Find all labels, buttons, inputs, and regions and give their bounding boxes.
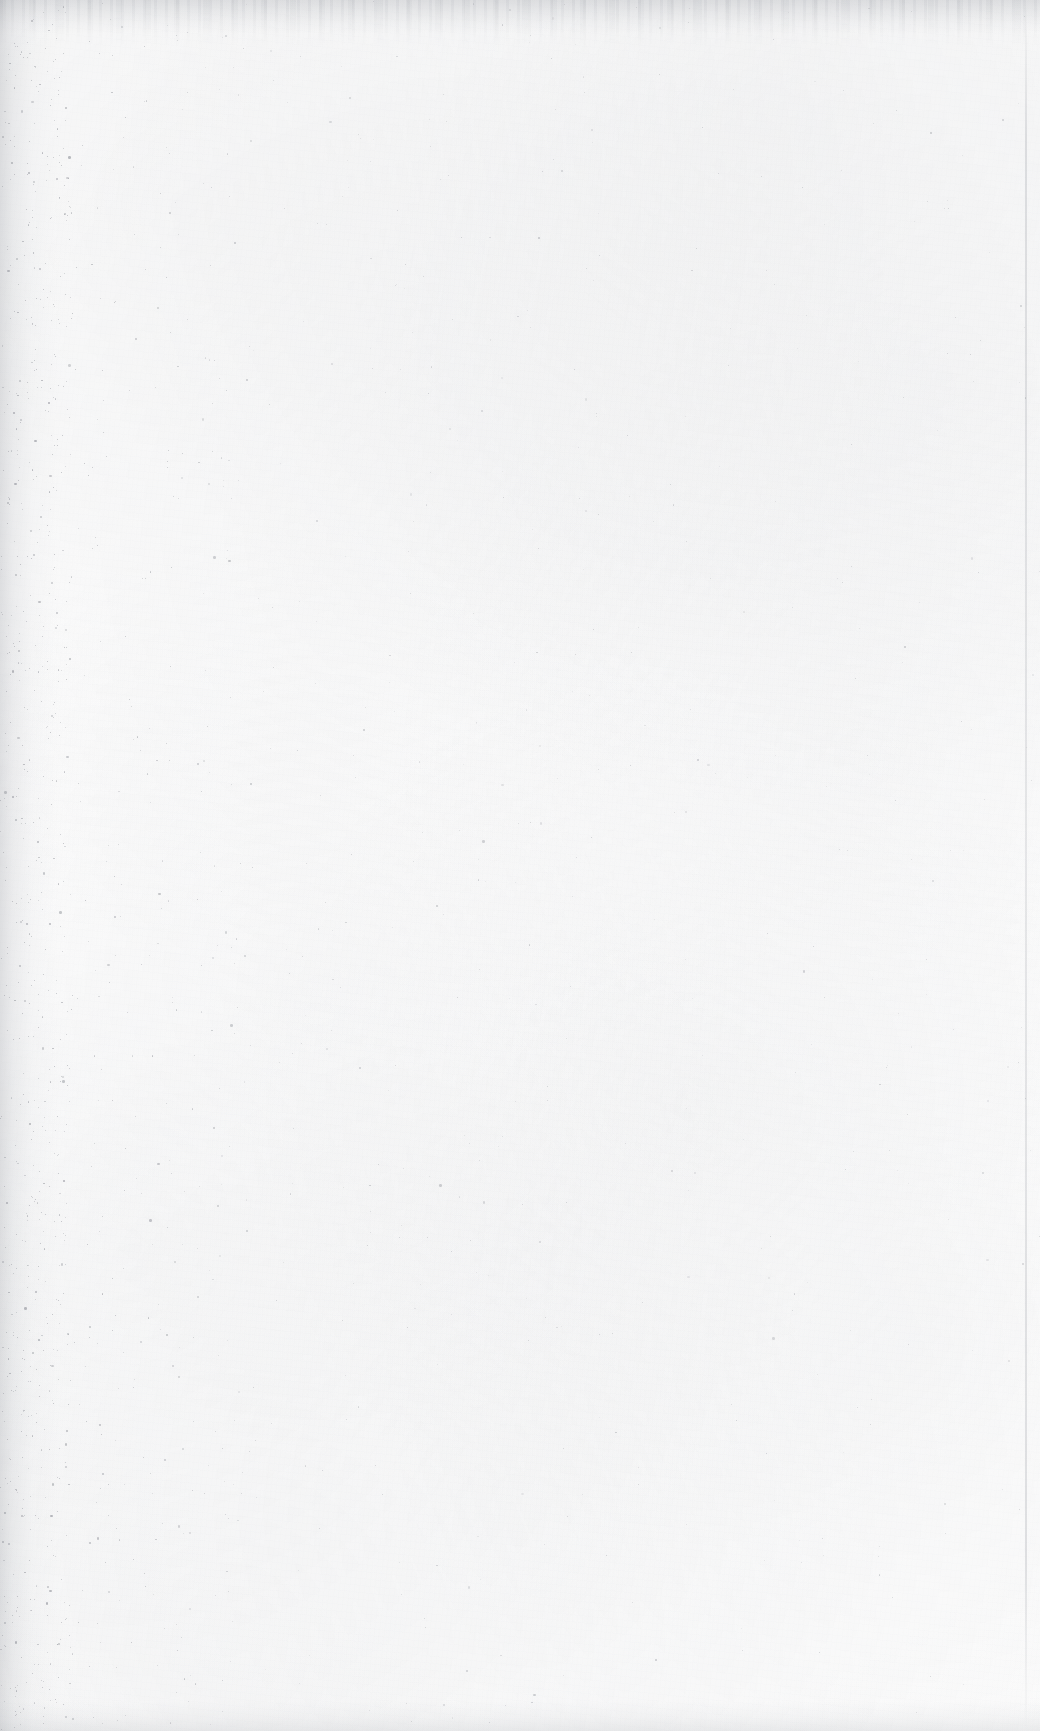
scan-edge-shadow-top — [0, 0, 1040, 34]
scan-edge-shadow-bottom — [0, 1701, 1040, 1731]
paper-grain-texture — [0, 0, 1040, 1731]
scan-edge-line-right — [1025, 0, 1027, 1731]
paper-grain-fine-texture — [0, 0, 1040, 1731]
scan-edge-shadow-left — [0, 0, 58, 1731]
scan-edge-mottle-top — [0, 0, 1040, 46]
scanner-speckle-layer — [0, 0, 1040, 1731]
scanned-page — [0, 0, 1040, 1731]
